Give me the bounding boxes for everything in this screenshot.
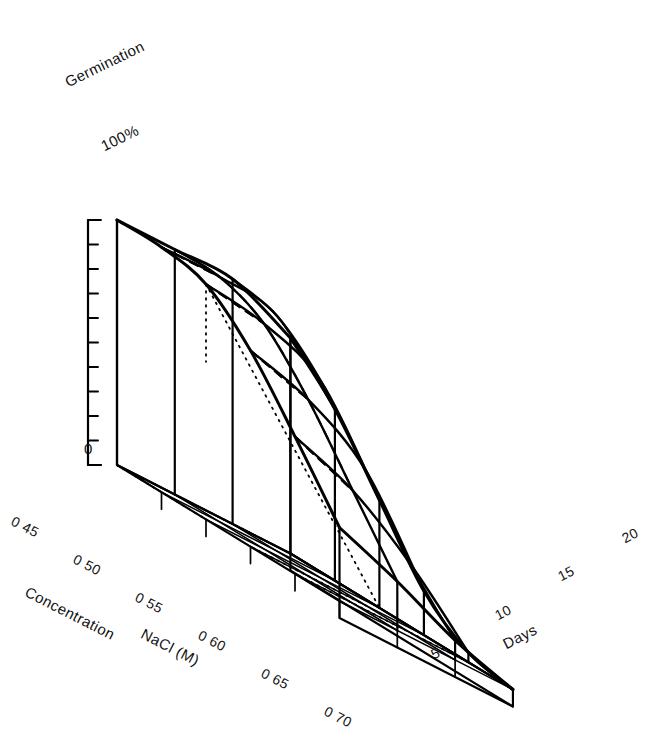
dotted-reference-lines: [117, 220, 468, 662]
surface-plot-svg: [0, 0, 659, 753]
hidden-mesh-dashed: [162, 247, 353, 490]
vaxis-min-label: 0: [84, 440, 93, 457]
figure-canvas: Germination 100% 0 0 45 0 50 0 55 0 60 0…: [0, 0, 659, 753]
vertical-axis: [88, 220, 117, 465]
surface-mesh: [117, 220, 513, 690]
